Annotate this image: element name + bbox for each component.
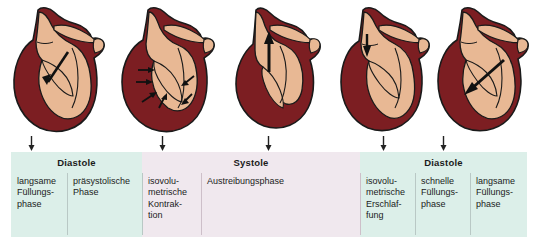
phase-label-line: Füllungs- bbox=[421, 187, 471, 198]
phase-label-line: tion bbox=[148, 210, 200, 221]
phase-header-diastole-left: Diastole bbox=[11, 157, 142, 168]
phase-header-systole: Systole bbox=[142, 157, 360, 168]
phase-label-line: isovolu- bbox=[148, 176, 200, 187]
column-divider-2 bbox=[142, 173, 143, 235]
phase-label-line: langsame bbox=[476, 176, 526, 187]
heart-diagram-slow-filling bbox=[6, 4, 110, 136]
phase-label-slow-filling-1: langsame Füllungs- phase bbox=[17, 176, 67, 210]
tick-arrow-1 bbox=[27, 136, 36, 152]
column-divider-4 bbox=[360, 173, 361, 235]
phase-label-line: metrische bbox=[148, 187, 200, 198]
heart-diagram-presystolic bbox=[114, 4, 218, 136]
phase-label-line: Erschlaf- bbox=[366, 199, 416, 210]
phase-label-isovolumetric-relaxation: isovolu- metrische Erschlaf- fung bbox=[366, 176, 416, 222]
phase-label-line: phase bbox=[421, 199, 471, 210]
phase-label-line: schnelle bbox=[421, 176, 471, 187]
phase-label-ejection: Austreibungsphase bbox=[207, 176, 357, 187]
column-divider-1 bbox=[67, 173, 68, 235]
phase-label-line: Füllungs- bbox=[17, 187, 67, 198]
tick-arrow-2 bbox=[158, 136, 167, 152]
tick-arrow-3 bbox=[264, 136, 273, 152]
phase-label-line: Austreibungsphase bbox=[207, 176, 357, 187]
phase-label-isovolumetric-contraction: isovolu- metrische Kontrak- tion bbox=[148, 176, 200, 222]
phase-header-diastole-right: Diastole bbox=[360, 157, 527, 168]
phase-label-line: fung bbox=[366, 210, 416, 221]
phase-label-line: metrische bbox=[366, 187, 416, 198]
phase-label-line: Kontrak- bbox=[148, 199, 200, 210]
phase-label-presystolic: präsystolische Phase bbox=[73, 176, 141, 199]
tick-arrow-4 bbox=[379, 136, 388, 152]
phase-label-line: langsame bbox=[17, 176, 67, 187]
phase-label-line: phase bbox=[17, 199, 67, 210]
cardiac-cycle-figure: Diastole Systole Diastole langsame Füllu… bbox=[0, 0, 540, 249]
phase-label-line: Füllungs- bbox=[476, 187, 526, 198]
phase-label-rapid-filling: schnelle Füllungs- phase bbox=[421, 176, 471, 210]
phase-label-line: isovolu- bbox=[366, 176, 416, 187]
phase-label-strip: Diastole Systole Diastole langsame Füllu… bbox=[11, 152, 527, 237]
column-divider-3 bbox=[201, 173, 202, 235]
heart-diagram-row bbox=[0, 0, 540, 136]
phase-label-line: Phase bbox=[73, 187, 141, 198]
phase-label-line: präsystolische bbox=[73, 176, 141, 187]
tick-arrow-5 bbox=[439, 136, 448, 152]
heart-diagram-isovolumetric-relaxation bbox=[330, 4, 434, 136]
phase-label-slow-filling-2: langsame Füllungs- phase bbox=[476, 176, 526, 210]
heart-diagram-rapid-filling bbox=[430, 4, 534, 136]
phase-label-line: phase bbox=[476, 199, 526, 210]
heart-diagram-ejection bbox=[222, 4, 326, 136]
